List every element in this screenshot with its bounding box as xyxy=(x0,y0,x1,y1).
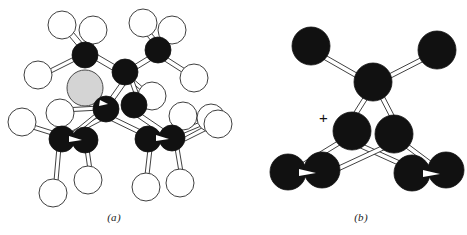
dark-atom xyxy=(112,59,138,85)
dark-atom xyxy=(354,63,392,101)
panel-a-structure xyxy=(8,9,232,207)
open-atom xyxy=(48,11,76,39)
open-atom xyxy=(8,108,36,136)
open-atom xyxy=(39,179,67,207)
panel-b-dark-atoms xyxy=(270,27,464,191)
open-atom xyxy=(132,173,160,201)
dark-atom xyxy=(333,112,371,150)
dark-atom xyxy=(72,42,98,68)
open-atom xyxy=(46,99,74,127)
molecular-structure-figure: .bond { fill: #ffffff; stroke: #2b2b2b; … xyxy=(0,0,467,235)
open-atom xyxy=(204,110,232,138)
panel-caption-b: (b) xyxy=(341,211,381,223)
panel-b-structure xyxy=(270,27,464,191)
dark-atom xyxy=(121,92,147,118)
figure-root: .bond { fill: #ffffff; stroke: #2b2b2b; … xyxy=(0,0,467,235)
open-atom xyxy=(180,64,208,92)
bond xyxy=(145,149,152,175)
dark-atom xyxy=(428,152,464,188)
bond xyxy=(175,148,183,172)
open-atom xyxy=(79,16,107,44)
dark-atom xyxy=(93,96,119,122)
panel-caption-a: (a) xyxy=(94,211,134,223)
open-atom xyxy=(166,169,194,197)
charge-plus-sign: + xyxy=(319,110,328,125)
open-atom xyxy=(24,61,52,89)
open-atom xyxy=(129,9,157,37)
open-atom xyxy=(74,166,102,194)
dark-atom xyxy=(304,152,340,188)
dark-atom xyxy=(375,115,413,153)
dark-atom xyxy=(418,31,456,69)
dark-atom xyxy=(292,27,330,65)
panel-a-open-atoms xyxy=(8,9,232,207)
dark-atom xyxy=(145,37,171,63)
